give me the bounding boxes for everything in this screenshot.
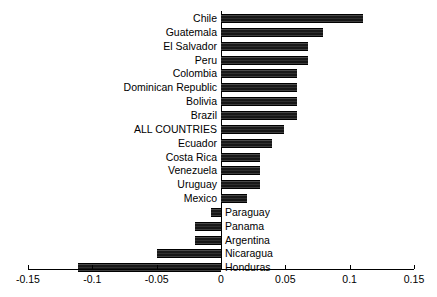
category-label: Bolivia [186,96,217,107]
bar [221,125,284,134]
bar [195,222,221,231]
category-label: Colombia [173,68,217,79]
bar [78,263,221,272]
bar [221,14,363,23]
bar [221,180,260,189]
bar [221,139,272,148]
category-label: Nicaragua [225,248,273,259]
category-label: Mexico [184,193,217,204]
bar [195,236,221,245]
category-label: Peru [195,55,217,66]
category-label: Venezuela [168,165,217,176]
category-label: Honduras [225,262,271,273]
category-label: Panama [225,221,264,232]
bar [221,153,260,162]
x-axis-line [28,269,414,270]
category-label: El Salvador [163,41,217,52]
bar [221,28,323,37]
plot-area: ChileGuatemalaEl SalvadorPeruColombiaDom… [0,0,437,297]
x-axis-tick-label: 0 [191,274,251,285]
bar [221,97,297,106]
category-label: Uruguay [177,179,217,190]
x-axis-tick [414,265,415,269]
x-axis-tick [28,265,29,269]
bar [221,166,260,175]
bar [221,111,297,120]
category-label: Dominican Republic [124,82,217,93]
x-axis-tick-label: 0.1 [320,274,380,285]
x-axis-tick-label: 0.05 [255,274,315,285]
x-axis-tick-label: -0.1 [62,274,122,285]
category-label: Costa Rica [166,152,217,163]
x-axis-tick-label: 0.15 [384,274,437,285]
bar [221,69,297,78]
x-axis-tick [350,265,351,269]
bar [221,56,308,65]
category-label: Paraguay [225,207,270,218]
bar [221,194,247,203]
category-label: Ecuador [178,138,217,149]
category-label: Chile [193,13,217,24]
bar [157,249,221,258]
category-label: ALL COUNTRIES [134,124,217,135]
x-axis-tick [285,265,286,269]
x-axis-tick [157,265,158,269]
x-axis-tick-label: -0.15 [0,274,58,285]
bar-chart: ChileGuatemalaEl SalvadorPeruColombiaDom… [0,0,437,297]
x-axis-tick-label: -0.05 [127,274,187,285]
category-label: Brazil [191,110,217,121]
bar [211,208,221,217]
x-axis-tick [221,265,222,269]
category-label: Argentina [225,235,270,246]
x-axis-tick [92,265,93,269]
bar [221,42,308,51]
category-label: Guatemala [166,27,217,38]
bar [221,83,297,92]
